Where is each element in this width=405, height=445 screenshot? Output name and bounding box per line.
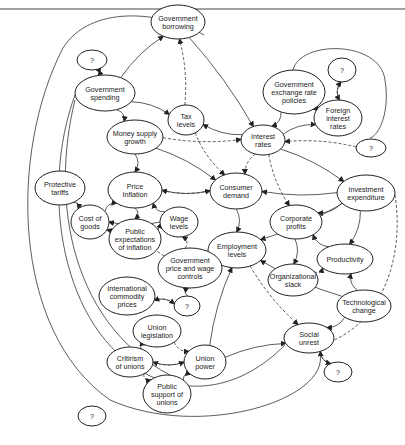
edge-q5-to-social_unrest xyxy=(320,351,330,363)
node-label: ? xyxy=(185,302,189,311)
edge-money_supply-to-interest_rates xyxy=(163,138,241,142)
node-label: profits xyxy=(286,222,306,231)
node-corporate-profits: Corporateprofits xyxy=(270,205,322,239)
edge-investment-to-productivity xyxy=(350,211,361,245)
node-label: expenditure xyxy=(347,193,385,202)
node-label: levels xyxy=(228,250,247,259)
node-interest-rates: Interestrates xyxy=(241,125,285,155)
node-tech-change: Technologicalchange xyxy=(337,290,391,322)
node-label: ? xyxy=(369,144,373,153)
node-foreign-rates: Foreigninterestrates xyxy=(314,100,362,136)
edge-intl_commodity-to-q4 xyxy=(154,299,174,304)
node-label: of unions xyxy=(115,362,145,371)
edge-gov_exchange-to-interest_rates xyxy=(272,112,281,126)
node-gov-spending: Governmentspending xyxy=(75,75,135,111)
edge-union_power-to-social_unrest xyxy=(225,343,286,357)
edge-consumer_demand-to-employment xyxy=(236,209,239,232)
node-label: rates xyxy=(330,122,346,131)
edge-interest_rates-to-foreign_rates xyxy=(283,125,315,135)
node-label: levels xyxy=(170,222,189,231)
node-label: levels xyxy=(177,120,196,129)
node-q4: ? xyxy=(174,296,200,316)
node-gov-exchange: Governmentexchange ratepolicies xyxy=(263,70,325,114)
node-label: borrowing xyxy=(162,22,194,31)
node-label: ? xyxy=(336,368,340,377)
node-label: tariffs xyxy=(51,188,69,197)
node-label: of inflation xyxy=(119,243,152,252)
node-public-expectations: Publicexpectationsof inflation xyxy=(109,219,161,259)
node-wage-levels: Wagelevels xyxy=(160,207,198,237)
edge-wage_levels-to-price_inflation xyxy=(153,203,165,212)
edge-gov_spending-to-q1 xyxy=(96,70,100,76)
edge-q4-to-gov_price_wage xyxy=(185,288,188,296)
edge-public_support-to-union_power xyxy=(183,374,190,380)
edge-investment-to-corporate_profits xyxy=(318,203,342,213)
node-label: goods xyxy=(80,222,100,231)
node-label: ? xyxy=(90,56,94,65)
edge-corporate_profits-to-org_slack xyxy=(294,239,298,264)
node-label: ? xyxy=(340,66,344,75)
node-investment: Investmentexpenditure xyxy=(337,175,395,211)
node-intl-commodity: Internationalcommodityprices xyxy=(99,277,155,315)
edge-q3-to-interest_rates xyxy=(285,141,356,147)
edge-interest_rates-to-corporate_profits xyxy=(269,155,290,206)
edge-gov_spending-to-tax_levels xyxy=(131,102,169,115)
node-label: legislation xyxy=(141,331,173,340)
edge-protective_tariffs-to-cost_of_goods xyxy=(73,202,79,208)
node-label: slack xyxy=(285,280,302,289)
node-q3: ? xyxy=(356,139,386,157)
node-label: growth xyxy=(124,137,146,146)
node-protective-tariffs: Protectivetariffs xyxy=(35,171,85,205)
edge-tax_levels-to-gov_borrowing xyxy=(179,39,185,105)
node-union-legislation: Unionlegislation xyxy=(133,315,181,347)
node-productivity: Productivity xyxy=(317,244,373,274)
node-public-support: Publicsupport ofunions xyxy=(143,375,191,413)
node-label: rates xyxy=(255,140,271,149)
node-org-slack: Organizationalslack xyxy=(268,264,318,296)
node-label: Inflation xyxy=(122,190,147,199)
edge-price_inflation-to-consumer_demand xyxy=(162,190,210,193)
node-label: demand xyxy=(223,191,249,200)
node-tax-levels: Taxlevels xyxy=(168,105,204,135)
node-gov-price-wage: Governmentprice and wagecontrols xyxy=(158,248,222,288)
edge-tech_change-to-social_unrest xyxy=(327,317,345,327)
node-cost-of-goods: Cost ofgoods xyxy=(71,205,109,239)
node-q1: ? xyxy=(77,50,107,70)
node-label: ? xyxy=(90,412,94,421)
edge-money_supply-to-consumer_demand xyxy=(156,148,215,180)
node-label: policies xyxy=(282,96,306,105)
node-label: power xyxy=(195,362,215,371)
node-social-unrest: Socialunrest xyxy=(284,323,334,353)
node-consumer-demand: Consumerdemand xyxy=(210,173,262,209)
edge-tech_change-to-productivity xyxy=(350,274,357,291)
edge-gov_spending-to-money_supply xyxy=(116,110,124,122)
node-criticism-unions: Critirismof unions xyxy=(107,347,153,377)
diagram-svg: ?GovernmentborrowingGovernmentexchange r… xyxy=(0,0,405,445)
node-label: controls xyxy=(177,272,203,281)
edge-productivity-to-corporate_profits xyxy=(313,235,329,247)
edge-interest_rates-to-tax_levels xyxy=(203,125,242,135)
node-label: prices xyxy=(117,300,137,309)
edge-money_supply-to-price_inflation xyxy=(135,154,138,172)
node-q5: ? xyxy=(324,362,352,382)
edge-cost_of_goods-to-price_inflation xyxy=(105,203,117,211)
edge-gov_spending-to-gov_borrowing xyxy=(121,36,164,77)
edge-interest_rates-to-consumer_demand xyxy=(245,154,256,174)
edge-foreign_rates-to-q2 xyxy=(337,82,341,100)
edge-price_inflation-to-public_expectations xyxy=(135,208,138,219)
node-label: unions xyxy=(156,398,178,407)
causal-loop-diagram: ?GovernmentborrowingGovernmentexchange r… xyxy=(0,0,405,445)
node-label: Productivity xyxy=(326,255,364,264)
node-union-power: Unionpower xyxy=(184,345,226,379)
edge-investment-to-consumer_demand xyxy=(262,191,337,195)
node-label: spending xyxy=(90,93,119,102)
edge-interest_rates-to-investment xyxy=(281,149,344,182)
node-money-supply: Money supplygrowth xyxy=(107,120,163,154)
node-q2: ? xyxy=(328,58,356,82)
node-q6: ? xyxy=(78,406,106,426)
edge-gov_price_wage-to-wage_levels xyxy=(183,237,187,249)
edge-union_legislation-to-union_power xyxy=(174,342,188,351)
node-gov-borrowing: Governmentborrowing xyxy=(151,5,205,39)
node-label: unrest xyxy=(299,338,319,347)
node-label: change xyxy=(352,306,376,315)
